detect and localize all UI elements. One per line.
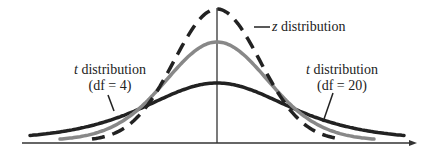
t-df20-label: t distribution (df = 20): [292, 62, 392, 94]
t-df4-df-text: (df = 4): [60, 78, 160, 94]
t-df20-label-text: distribution: [310, 62, 378, 77]
z-label-text: distribution: [277, 19, 345, 34]
t-df20-callout-line: [323, 93, 333, 122]
x-axis-arrow-icon: [409, 140, 417, 146]
t-df20-df-text: (df = 20): [292, 78, 392, 94]
t-df4-callout-line: [108, 95, 114, 111]
t-df4-label: t distribution (df = 4): [60, 62, 160, 94]
z-distribution-label: z distribution: [272, 19, 346, 35]
t-df4-label-text: distribution: [78, 62, 146, 77]
